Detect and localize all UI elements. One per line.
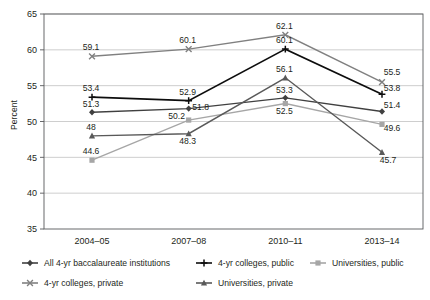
line-chart: Percent 354045505560652004–052007–082010… (0, 0, 430, 300)
data-point-label: 48 (86, 122, 96, 132)
data-point-marker (89, 109, 95, 115)
data-point-label: 44.6 (83, 146, 100, 156)
legend-label: Universities, private (218, 278, 293, 288)
data-point-label: 60.1 (276, 35, 293, 45)
data-point-label: 45.7 (380, 155, 397, 165)
series-line (92, 104, 382, 161)
data-point-label: 51.3 (83, 99, 100, 109)
legend-label: All 4-yr baccalaureate institutions (44, 258, 170, 268)
data-point-label: 52.9 (179, 87, 196, 97)
data-point-label: 51.8 (192, 102, 209, 112)
data-point-label: 56.1 (276, 64, 293, 74)
data-point-marker (282, 74, 288, 80)
y-axis-tick-label: 60 (27, 45, 37, 55)
data-point-label: 53.4 (83, 83, 100, 93)
data-point-marker (89, 158, 94, 163)
x-axis-tick-label: 2010–11 (268, 236, 302, 246)
legend-item-2[interactable]: 4-yr colleges, public (196, 258, 295, 268)
legend-item-4[interactable]: 4-yr colleges, private (22, 278, 124, 288)
legend-label: 4-yr colleges, public (218, 258, 295, 268)
series-2 (89, 46, 386, 104)
legend-item-3[interactable]: Universities, public (310, 258, 404, 268)
chart-canvas: 354045505560652004–052007–082010–112013–… (0, 0, 430, 300)
y-axis-tick-label: 55 (27, 81, 37, 91)
x-axis-tick-label: 2013–14 (364, 236, 399, 246)
series-4 (89, 32, 385, 85)
data-point-marker (315, 260, 320, 265)
y-axis-tick-label: 45 (27, 153, 37, 163)
x-axis-tick-label: 2007–08 (171, 236, 206, 246)
data-point-label: 53.8 (384, 83, 401, 93)
data-point-marker (201, 260, 208, 267)
data-point-marker (186, 105, 192, 111)
y-axis-title: Percent (9, 85, 19, 145)
data-point-label: 53.3 (276, 85, 293, 95)
legend-label: Universities, public (332, 258, 404, 268)
data-point-label: 51.4 (384, 100, 401, 110)
data-point-marker (27, 260, 33, 266)
data-point-label: 59.1 (83, 42, 100, 52)
y-axis-tick-label: 40 (27, 188, 37, 198)
data-point-label: 50.2 (168, 111, 185, 121)
data-point-label: 48.3 (179, 136, 196, 146)
x-axis-tick-label: 2004–05 (74, 236, 109, 246)
series-line (92, 49, 382, 101)
data-point-marker (185, 97, 192, 104)
data-point-label: 62.1 (276, 21, 293, 31)
data-point-label: 55.5 (384, 67, 401, 77)
y-axis-tick-label: 35 (27, 224, 37, 234)
legend-item-5[interactable]: Universities, private (196, 278, 293, 288)
y-axis-tick-label: 50 (27, 117, 37, 127)
legend-item-1[interactable]: All 4-yr baccalaureate institutions (22, 258, 170, 268)
data-point-label: 60.1 (179, 35, 196, 45)
data-point-marker (282, 46, 289, 53)
legend-label: 4-yr colleges, private (44, 278, 124, 288)
y-axis-tick-label: 65 (27, 9, 37, 19)
data-point-label: 52.5 (276, 106, 293, 116)
data-point-marker (282, 95, 288, 101)
data-point-label: 49.6 (384, 123, 401, 133)
data-point-marker (186, 117, 191, 122)
